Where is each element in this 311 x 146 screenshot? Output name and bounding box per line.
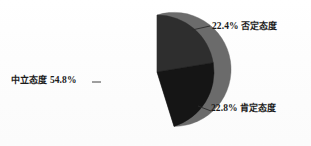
pie-label-negative-category: 否定态度	[241, 21, 277, 31]
pie-chart-figure: 22.4% 否定态度 中立态度 54.8% 22.8% 肯定态度	[0, 0, 311, 146]
pie-label-positive-category: 肯定态度	[240, 103, 276, 113]
pie-label-positive: 22.8% 肯定态度	[211, 104, 277, 114]
pie-label-neutral-category: 中立态度	[11, 75, 47, 85]
pie-label-negative: 22.4% 否定态度	[212, 22, 278, 32]
pie-label-neutral-percent: 54.8%	[50, 75, 77, 85]
pie-label-neutral: 中立态度 54.8%	[11, 76, 77, 86]
pie-label-negative-percent: 22.4%	[212, 21, 239, 31]
pie-label-positive-percent: 22.8%	[211, 103, 238, 113]
